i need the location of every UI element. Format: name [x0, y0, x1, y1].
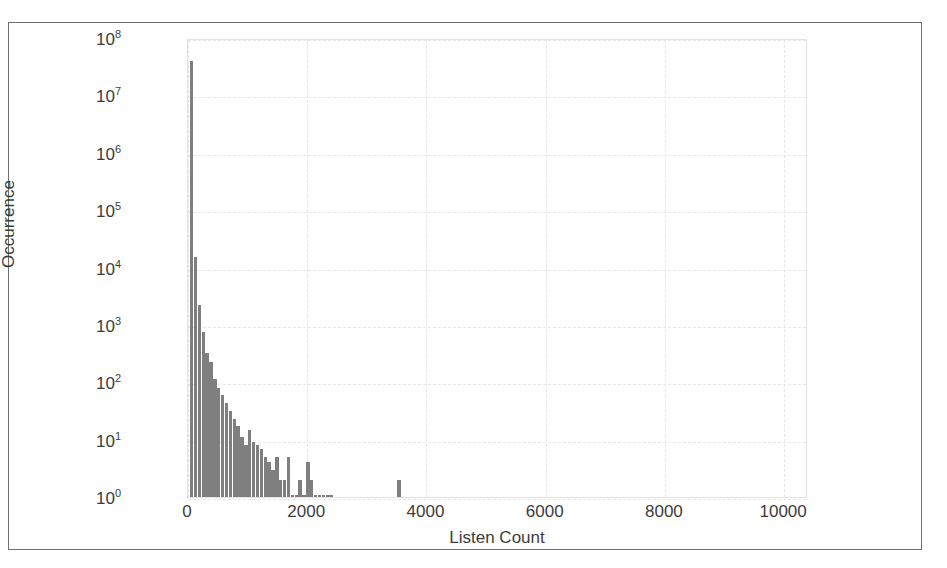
histogram-bar	[221, 395, 224, 497]
histogram-bar	[244, 445, 247, 497]
histogram-bar	[264, 457, 267, 497]
y-axis-label: Occurrence	[0, 180, 19, 268]
histogram-bar	[217, 388, 220, 497]
y-tick-label: 105	[96, 200, 121, 222]
histogram-bar	[275, 457, 278, 497]
histogram-bar	[229, 411, 232, 497]
histogram-bar	[322, 495, 325, 497]
histogram-bar	[225, 403, 228, 497]
histogram-bar	[318, 495, 321, 497]
histogram-bar	[205, 353, 208, 497]
figure-page: Occurrence 100101102103104105106107108 0…	[0, 0, 947, 568]
histogram-bar	[202, 332, 205, 497]
histogram-bar	[302, 495, 305, 497]
histogram-bar	[190, 61, 193, 497]
y-tick-label: 104	[96, 258, 121, 280]
plot-area	[187, 39, 807, 498]
y-tick-label: 107	[96, 86, 121, 108]
bar-series	[188, 40, 806, 497]
histogram-bar	[271, 470, 274, 497]
histogram-bar	[194, 257, 197, 497]
histogram-bar	[279, 480, 282, 497]
y-tick-label: 103	[96, 315, 121, 337]
histogram-bar	[326, 495, 329, 497]
y-tick-label: 102	[96, 372, 121, 394]
histogram-bar	[209, 362, 212, 498]
histogram-bar	[306, 462, 309, 497]
x-tick-label: 6000	[526, 502, 564, 522]
x-axis-label: Listen Count	[187, 528, 807, 548]
histogram-bar	[198, 305, 201, 497]
histogram-bar	[310, 480, 313, 497]
y-tick-label: 100	[96, 487, 121, 509]
histogram-bar	[298, 480, 301, 497]
x-tick-label: 0	[182, 502, 191, 522]
x-tick-label: 8000	[645, 502, 683, 522]
histogram-bar	[213, 379, 216, 497]
histogram-bar	[397, 480, 400, 497]
histogram-bar	[329, 495, 332, 497]
histogram-bar	[248, 430, 251, 497]
x-tick-label: 10000	[760, 502, 807, 522]
histogram-bar	[295, 495, 298, 497]
histogram-bar	[287, 457, 290, 497]
gridline-horizontal	[188, 499, 806, 500]
histogram-bar	[283, 480, 286, 497]
histogram-bar	[252, 442, 255, 497]
histogram-bar	[233, 419, 236, 497]
histogram-bar	[240, 437, 243, 497]
scan-frame: Occurrence 100101102103104105106107108 0…	[8, 22, 922, 550]
histogram-bar	[291, 495, 294, 497]
histogram-bar	[260, 449, 263, 497]
histogram-bar	[236, 426, 239, 497]
histogram-figure: Occurrence 100101102103104105106107108 0…	[9, 23, 923, 551]
y-tick-label: 108	[96, 28, 121, 50]
histogram-bar	[267, 462, 270, 497]
histogram-bar	[256, 445, 259, 497]
y-tick-label: 101	[96, 430, 121, 452]
x-tick-label: 2000	[287, 502, 325, 522]
histogram-bar	[314, 495, 317, 497]
x-tick-label: 4000	[407, 502, 445, 522]
y-tick-label: 106	[96, 143, 121, 165]
